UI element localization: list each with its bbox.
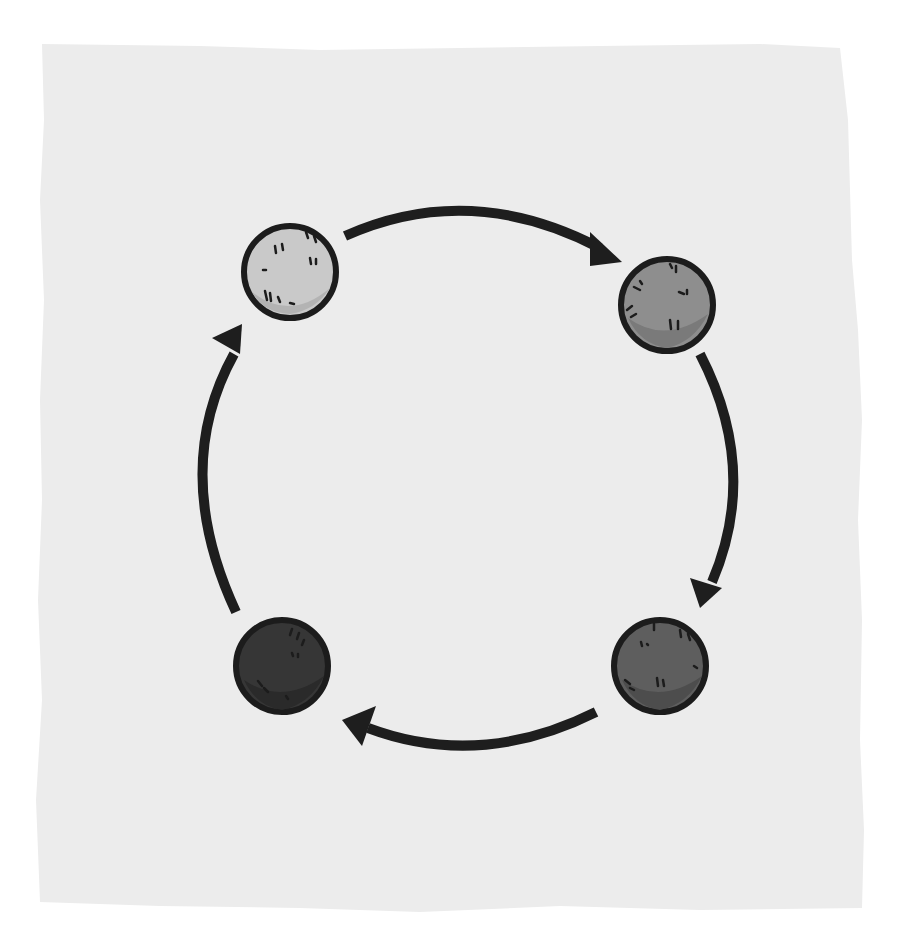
sphere-bottom-right: [614, 620, 706, 712]
sphere-top-right: [621, 259, 713, 351]
sphere-bottom-left: [236, 620, 328, 712]
sphere-top-left: [244, 226, 336, 318]
paper-background: [36, 44, 864, 912]
diagram-canvas: [0, 0, 901, 948]
cycle-diagram: [0, 0, 901, 948]
